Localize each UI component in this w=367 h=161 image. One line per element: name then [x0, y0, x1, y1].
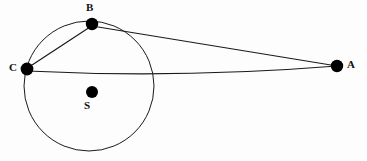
segment-c-a	[27, 66, 337, 74]
segment-b-a	[92, 26, 337, 66]
segment-c-b	[29, 27, 90, 67]
point-label-b: B	[86, 2, 93, 13]
point-label-a: A	[347, 59, 355, 70]
main-circle	[24, 21, 154, 151]
point-c	[21, 63, 34, 76]
point-a	[331, 60, 343, 72]
geometry-figure: B C S A	[0, 0, 367, 161]
point-label-c: C	[9, 62, 17, 73]
point-s	[86, 86, 98, 98]
point-label-s: S	[84, 100, 90, 111]
figure-canvas	[0, 0, 367, 161]
point-b	[86, 18, 98, 30]
